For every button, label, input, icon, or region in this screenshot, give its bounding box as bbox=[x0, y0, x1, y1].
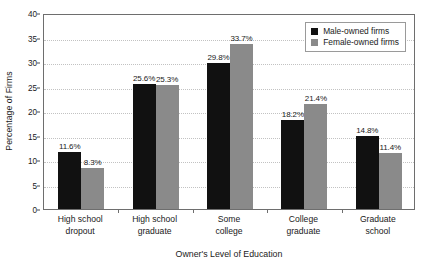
x-tick-label: Graduateschool bbox=[360, 214, 396, 237]
y-tick-mark bbox=[37, 14, 40, 15]
y-tick-mark bbox=[37, 185, 40, 186]
y-tick-mark bbox=[37, 161, 40, 162]
x-axis-title: Owner's Level of Education bbox=[43, 249, 415, 259]
y-tick-label: 40 bbox=[28, 10, 37, 19]
y-tick-label: 35 bbox=[28, 34, 37, 43]
y-tick-label: 15 bbox=[28, 132, 37, 141]
y-tick-label: 30 bbox=[28, 59, 37, 68]
y-axis-title: Percentage of Firms bbox=[0, 0, 18, 222]
y-tick-label: 20 bbox=[28, 108, 37, 117]
bar-chart-figure: Percentage of Firms 0510152025303540 11.… bbox=[0, 0, 437, 279]
y-tick-mark bbox=[37, 87, 40, 88]
x-tick-label-line: school bbox=[360, 226, 396, 238]
y-tick-mark bbox=[37, 210, 40, 211]
y-tick-mark bbox=[37, 38, 40, 39]
x-tick-mark bbox=[342, 209, 343, 213]
x-tick-label-line: Some bbox=[215, 214, 242, 226]
x-tick-label: Collegegraduate bbox=[286, 214, 320, 237]
x-tick-label-line: High school bbox=[132, 214, 177, 226]
bar-value-label: 14.8% bbox=[352, 126, 383, 135]
y-tick-mark bbox=[37, 112, 40, 113]
y-tick-mark bbox=[37, 63, 40, 64]
x-axis-tick-labels: High schooldropoutHigh schoolgraduateSom… bbox=[43, 214, 415, 244]
x-tick-label-line: Graduate bbox=[360, 214, 396, 226]
y-tick-mark bbox=[37, 136, 40, 137]
legend-label-male: Male-owned firms bbox=[323, 26, 389, 37]
legend-item-male: Male-owned firms bbox=[311, 26, 399, 37]
legend-item-female: Female-owned firms bbox=[311, 37, 399, 48]
x-tick-label: High schooldropout bbox=[58, 214, 103, 237]
y-tick-label: 10 bbox=[28, 157, 37, 166]
x-tick-label: High schoolgraduate bbox=[132, 214, 177, 237]
legend-label-female: Female-owned firms bbox=[323, 37, 399, 48]
y-axis-tick-labels: 0510152025303540 bbox=[18, 14, 40, 210]
x-tick-mark bbox=[193, 209, 194, 213]
x-tick-label-line: college bbox=[215, 226, 242, 238]
x-tick-label: Somecollege bbox=[215, 214, 242, 237]
y-axis-title-text: Percentage of Firms bbox=[4, 71, 14, 150]
x-tick-label-line: graduate bbox=[132, 226, 177, 238]
x-tick-label-line: dropout bbox=[58, 226, 103, 238]
legend-swatch-male-icon bbox=[311, 28, 318, 35]
legend-swatch-female-icon bbox=[311, 39, 318, 46]
x-tick-mark bbox=[267, 209, 268, 213]
x-tick-mark bbox=[118, 209, 119, 213]
chart-legend: Male-owned firms Female-owned firms bbox=[305, 22, 406, 52]
y-tick-label: 25 bbox=[28, 83, 37, 92]
plot-area: 11.6%8.3%25.6%25.3%29.8%33.7%18.2%21.4%1… bbox=[43, 14, 415, 210]
x-tick-label-line: High school bbox=[58, 214, 103, 226]
x-tick-label-line: graduate bbox=[286, 226, 320, 238]
x-tick-label-line: College bbox=[286, 214, 320, 226]
bar-value-label: 11.4% bbox=[375, 143, 406, 152]
bar-female bbox=[379, 153, 402, 209]
